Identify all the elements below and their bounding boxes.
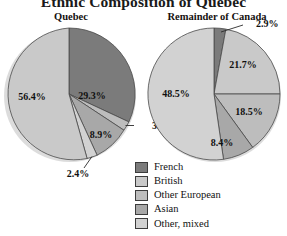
legend-item-asian[interactable]: Asian [135,203,221,217]
chart-title: Ethnic Composition of Quebec [0,0,287,11]
legend-swatch-french [135,162,148,173]
legend-item-other-european[interactable]: Other European [135,188,221,202]
label-quebec-french: 29.3% [78,90,106,101]
legend-label-asian: Asian [154,204,179,215]
label-canada-other-mixed: 48.5% [162,88,190,99]
label-quebec-asian: 8.9% [90,129,113,140]
chart-root: Ethnic Composition of Quebec Quebec Rema… [0,0,287,236]
legend-label-british: British [154,176,183,187]
label-canada-british: 21.7% [229,59,257,70]
label-canada-french: 2.9% [256,18,279,29]
legend-swatch-asian [135,204,148,215]
legend-label-other-mixed: Other, mixed [154,219,209,230]
legend-item-french[interactable]: French [135,160,221,174]
pie-chart-remainder-of-canada: 2.9% 21.7% 18.5% 8.4% 48.5% [143,22,287,167]
legend-swatch-other-european [135,190,148,201]
legend-label-french: French [154,162,183,173]
legend-label-other-european: Other European [154,190,221,201]
legend-swatch-other-mixed [135,218,148,229]
legend-item-british[interactable]: British [135,174,221,188]
label-canada-asian: 8.4% [211,137,234,148]
label-quebec-other-mixed: 2.4% [67,168,90,179]
label-quebec-british: 56.4% [18,91,46,102]
pie-left-subtitle: Quebec [16,11,126,22]
legend-item-other-mixed[interactable]: Other, mixed [135,217,221,231]
pie-chart-quebec: 29.3% 3.0% 8.9% 2.4% 56.4% [0,22,145,167]
chart-legend: French British Other European Asian Othe… [135,160,221,231]
legend-swatch-british [135,176,148,187]
label-canada-other-european: 18.5% [235,106,263,117]
